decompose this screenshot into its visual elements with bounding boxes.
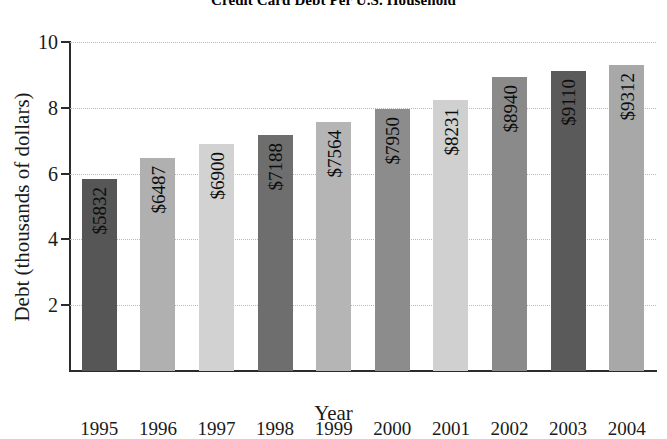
bar-value-label-wrapper: $8940	[492, 77, 527, 371]
bar-value-label-wrapper: $6487	[140, 158, 175, 371]
bar-value-label-wrapper: $7950	[375, 109, 410, 371]
bar[interactable]: $7564	[316, 122, 351, 371]
bar-value-label: $6900	[207, 152, 226, 200]
y-tick-label-6: 6	[48, 164, 58, 184]
bar-value-label: $9110	[559, 79, 578, 126]
y-tick-mark-4	[61, 238, 70, 240]
y-axis-title: Debt (thousands of dollars)	[11, 92, 33, 321]
bar-value-label: $8231	[441, 108, 460, 156]
bar-value-label-wrapper: $5832	[82, 179, 117, 371]
y-tick-mark-2	[61, 304, 70, 306]
bar-value-label-wrapper: $8231	[433, 100, 468, 371]
y-axis-title-wrapper: Debt (thousands of dollars)	[28, 42, 29, 371]
bar-value-label-wrapper: $7564	[316, 122, 351, 371]
bar-value-label-wrapper: $7188	[258, 135, 293, 371]
y-tick-label-2: 2	[48, 295, 58, 315]
y-tick-mark-10	[61, 41, 70, 43]
bar[interactable]: $7188	[258, 135, 293, 371]
bar[interactable]: $8940	[492, 77, 527, 371]
bar[interactable]: $7950	[375, 109, 410, 371]
y-tick-mark-6	[61, 173, 70, 175]
bar[interactable]: $9312	[609, 65, 644, 371]
bar-value-label: $7564	[324, 130, 343, 178]
bar-value-label-wrapper: $9312	[609, 65, 644, 371]
bar-value-label-wrapper: $6900	[199, 144, 234, 371]
bar[interactable]: $6487	[140, 158, 175, 371]
bar-value-label: $7950	[383, 117, 402, 165]
bar-value-label: $6487	[148, 166, 167, 214]
bar-value-label: $9312	[617, 73, 636, 121]
y-tick-mark-8	[61, 107, 70, 109]
bar[interactable]: $8231	[433, 100, 468, 371]
bar-value-label: $8940	[500, 85, 519, 133]
bar-value-label: $7188	[266, 143, 285, 191]
bar[interactable]: $5832	[82, 179, 117, 371]
x-axis-title: Year	[0, 402, 667, 424]
bar-value-label-wrapper: $9110	[551, 71, 586, 371]
bar[interactable]: $9110	[551, 71, 586, 371]
y-tick-label-10: 10	[38, 32, 58, 52]
bar[interactable]: $6900	[199, 144, 234, 371]
y-tick-label-4: 4	[48, 229, 58, 249]
y-tick-label-8: 8	[48, 98, 58, 118]
gridline-y-10	[70, 42, 656, 44]
chart-title: Credit Card Debt Per U.S. Household	[0, 0, 667, 8]
plot-area: 246810$58321995$64871996$69001997$718819…	[70, 42, 656, 371]
bar-value-label: $5832	[90, 187, 109, 235]
